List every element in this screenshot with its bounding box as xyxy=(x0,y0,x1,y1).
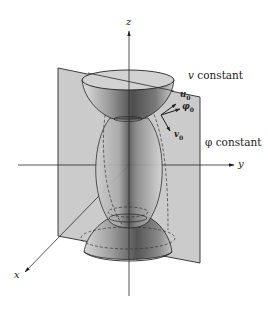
phi0-label: φ0 xyxy=(182,102,194,113)
z-axis-label: z xyxy=(126,17,131,27)
v-constant-label: v constant xyxy=(188,70,243,81)
phi-constant-label: φ constant xyxy=(205,137,262,148)
v0-label: v0 xyxy=(174,130,183,141)
v-symbol: v xyxy=(188,69,194,81)
u0-label: u0 xyxy=(180,90,190,101)
coordinate-surfaces-diagram xyxy=(0,0,268,309)
x-axis-label: x xyxy=(14,270,20,280)
y-axis-label: y xyxy=(238,159,244,169)
